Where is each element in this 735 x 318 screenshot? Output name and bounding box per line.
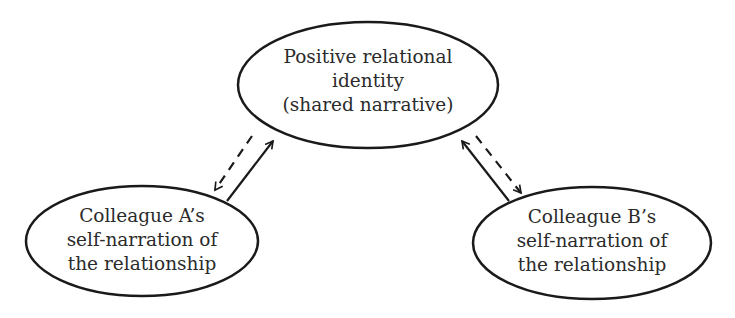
solid-arrow-a-to-shared: [227, 141, 273, 201]
colleague-b-line-2: self-narration of: [492, 229, 692, 253]
shared-label-line-1: Positive relational: [268, 45, 468, 69]
colleague-b-label: Colleague B’s self-narration of the rela…: [492, 205, 692, 277]
colleague-a-line-1: Colleague A’s: [42, 204, 242, 228]
colleague-b-line-3: the relationship: [492, 253, 692, 277]
shared-label-line-2: identity: [268, 69, 468, 93]
dashed-arrow-shared-to-b: [476, 136, 521, 193]
solid-arrow-b-to-shared: [462, 141, 509, 201]
shared-label-line-3: (shared narrative): [268, 93, 468, 117]
shared-narrative-label: Positive relational identity (shared nar…: [268, 45, 468, 117]
dashed-arrow-shared-to-a: [215, 136, 252, 190]
colleague-a-label: Colleague A’s self-narration of the rela…: [42, 204, 242, 276]
colleague-b-line-1: Colleague B’s: [492, 205, 692, 229]
colleague-a-line-2: self-narration of: [42, 228, 242, 252]
colleague-a-line-3: the relationship: [42, 252, 242, 276]
